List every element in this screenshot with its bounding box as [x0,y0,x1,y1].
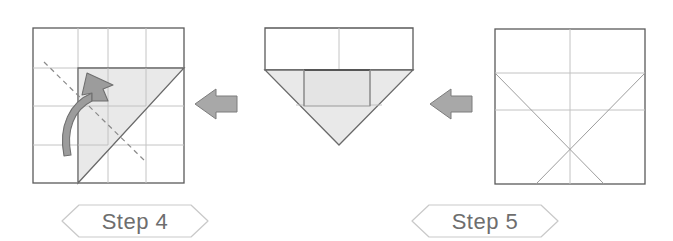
step-4-label-text: Step 4 [102,209,169,234]
raised-rectangle-flap [304,70,370,106]
origami-instruction-sheet: Step 4 Step 5 [0,0,673,241]
arrow-1 [195,89,237,119]
origami-diagram-canvas: Step 4 Step 5 [0,0,673,241]
arrow-2 [430,89,472,119]
figure-crease-pattern-result [495,29,645,184]
step-5-label-text: Step 5 [452,209,519,234]
figure-step-4 [33,28,184,183]
figure-step-5 [265,28,413,145]
step-4-label: Step 4 [62,205,208,237]
step-5-label: Step 5 [412,205,558,237]
